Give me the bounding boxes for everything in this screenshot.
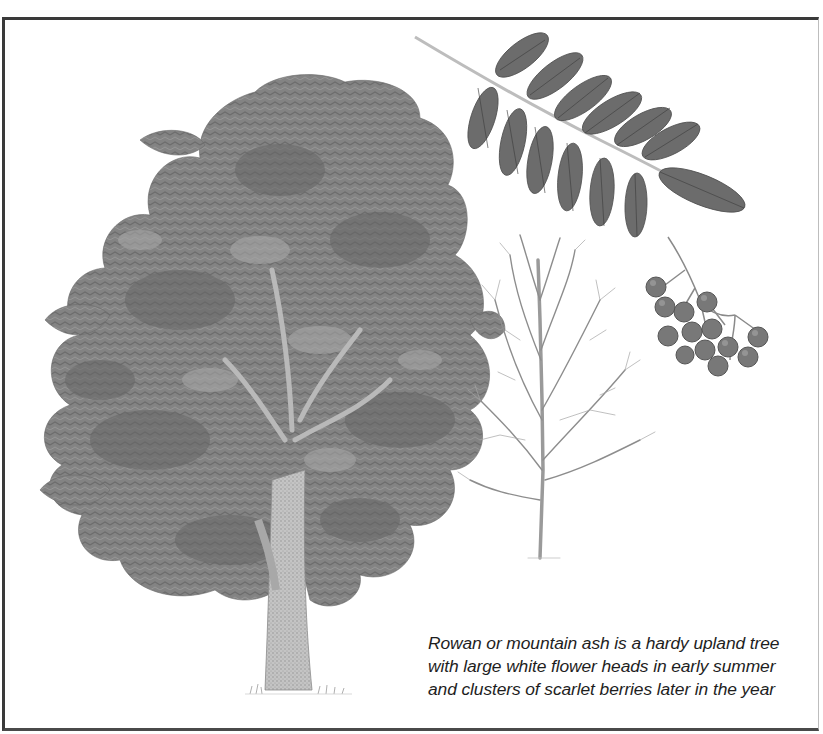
caption-line-1: Rowan or mountain ash is a hardy upland … (428, 632, 820, 655)
berries (646, 277, 768, 376)
leaflets (462, 25, 751, 237)
summer-tree-illustration (40, 75, 505, 694)
illustration-artwork (0, 0, 823, 734)
caption: Rowan or mountain ash is a hardy upland … (428, 632, 820, 701)
winter-tree-illustration (458, 235, 655, 558)
berry-cluster-illustration (646, 237, 768, 376)
caption-line-2: with large white flower heads in early s… (428, 655, 820, 678)
caption-line-3: and clusters of scarlet berries later in… (428, 678, 820, 701)
